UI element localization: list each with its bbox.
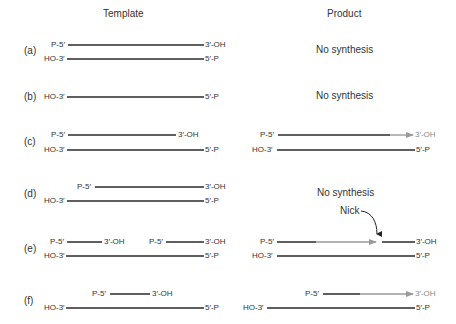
label-a-oh3: 3′-OH — [205, 41, 226, 49]
label-e-oh3-right: 3′-OH — [205, 238, 226, 246]
product-f-p5: P-5′ — [305, 290, 319, 298]
product-c-oh3: 3′-OH — [415, 131, 436, 139]
label-c-5p: 5′-P — [205, 146, 219, 154]
product-header: Product — [327, 9, 361, 19]
nick-arrow-icon — [361, 211, 377, 234]
label-e-oh3-left: 3′-OH — [104, 238, 125, 246]
product-f-5p: 5′-P — [416, 304, 430, 312]
product-c-p5: P-5′ — [260, 131, 274, 139]
product-c-ho3: HO-3′ — [252, 146, 273, 154]
row-label-c: (c) — [24, 137, 36, 147]
product-b-no-synthesis: No synthesis — [316, 91, 373, 101]
row-label-d: (d) — [24, 189, 36, 199]
label-e-ho3: HO-3′ — [44, 252, 65, 260]
product-a-no-synthesis: No synthesis — [316, 45, 373, 55]
label-f-ho3: HO-3′ — [44, 304, 65, 312]
label-c-ho3: HO-3′ — [44, 146, 65, 154]
product-c-5p: 5′-P — [416, 146, 430, 154]
label-a-ho3: HO-3′ — [44, 55, 65, 63]
label-b-5p: 5′-P — [205, 93, 219, 101]
nick-label: Nick — [340, 206, 359, 216]
row-label-f: (f) — [24, 296, 33, 306]
product-f-ho3: HO-3′ — [243, 304, 264, 312]
row-label-b: (b) — [24, 92, 36, 102]
label-f-oh3: 3′-OH — [152, 290, 173, 298]
label-e-5p: 5′-P — [205, 252, 219, 260]
product-d-no-synthesis: No synthesis — [317, 188, 374, 198]
template-header: Template — [103, 9, 144, 19]
product-e-p5: P-5′ — [260, 238, 274, 246]
label-d-p5: P-5′ — [77, 183, 91, 191]
product-e-ho3: HO-3′ — [252, 252, 273, 260]
label-f-p5: P-5′ — [92, 290, 106, 298]
label-d-ho3: HO-3′ — [44, 197, 65, 205]
label-c-p5: P-5′ — [51, 131, 65, 139]
row-label-a: (a) — [24, 46, 36, 56]
label-d-5p: 5′-P — [205, 197, 219, 205]
strand-diagram — [0, 0, 456, 324]
label-e-p5-right: P-5′ — [149, 238, 163, 246]
label-c-oh3: 3′-OH — [178, 131, 199, 139]
label-a-5p: 5′-P — [205, 55, 219, 63]
label-a-p5: P-5′ — [51, 41, 65, 49]
product-e-5p: 5′-P — [416, 252, 430, 260]
label-d-oh3: 3′-OH — [205, 183, 226, 191]
label-e-p5-left: P-5′ — [50, 238, 64, 246]
row-label-e: (e) — [24, 244, 36, 254]
label-f-5p: 5′-P — [205, 304, 219, 312]
product-f-oh3: 3′-OH — [415, 290, 436, 298]
product-e-oh3: 3′-OH — [416, 238, 437, 246]
label-b-ho3: HO-3′ — [44, 93, 65, 101]
